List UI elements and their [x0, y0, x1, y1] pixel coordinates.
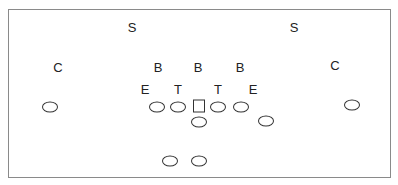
center-square-icon — [193, 100, 205, 113]
offense-quarterback-oval-icon — [191, 117, 207, 128]
offense-wide-receiver-oval-icon — [344, 100, 360, 111]
defender-tackle: T — [214, 83, 222, 97]
offense-running-back-oval-icon — [162, 156, 178, 167]
offense-tackle-oval-icon — [210, 102, 226, 113]
offense-wide-receiver-oval-icon — [42, 102, 58, 113]
defender-cornerback: C — [53, 61, 62, 75]
offense-guard-oval-icon — [149, 102, 165, 113]
defender-linebacker: B — [194, 61, 203, 75]
defender-end: E — [141, 83, 150, 97]
defender-end: E — [249, 83, 258, 97]
defender-safety: S — [128, 21, 137, 35]
defender-linebacker: B — [154, 61, 163, 75]
offense-running-back-oval-icon — [191, 156, 207, 167]
offense-guard-oval-icon — [170, 102, 186, 113]
defender-linebacker: B — [236, 61, 245, 75]
offense-wing-oval-icon — [258, 116, 274, 127]
defender-cornerback: C — [330, 59, 339, 73]
defender-tackle: T — [174, 83, 182, 97]
defender-safety: S — [290, 21, 299, 35]
field-border — [8, 9, 391, 178]
offense-tackle-oval-icon — [233, 102, 249, 113]
